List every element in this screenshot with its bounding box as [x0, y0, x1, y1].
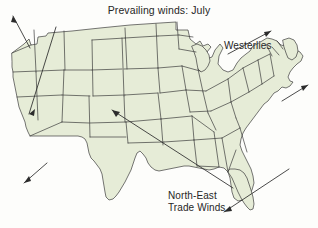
us-map-graphic	[0, 0, 318, 228]
westerlies-label: Westerlies	[224, 40, 272, 52]
prevailing-winds-map-figure: Prevailing winds: July Westerlies North-…	[0, 0, 318, 228]
arrow-southwest-offshore	[24, 163, 47, 183]
trade-winds-label: North-EastTrade Winds	[168, 190, 225, 214]
trade-winds-label-line1: North-East	[168, 190, 217, 201]
figure-title: Prevailing winds: July	[0, 4, 318, 16]
arrow-pacific-northwest	[11, 16, 30, 48]
trade-winds-label-line2: Trade Winds	[168, 202, 225, 213]
